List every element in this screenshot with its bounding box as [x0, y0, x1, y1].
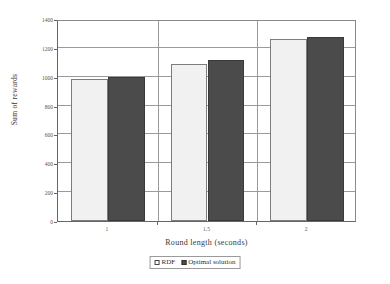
- x-axis-tick-label: 2: [286, 226, 326, 232]
- bar-optimal-solution-1: [108, 77, 145, 221]
- bar-optimal-solution-2: [307, 37, 344, 221]
- x-axis-tick-label: 1: [87, 226, 127, 232]
- category-divider: [158, 21, 159, 221]
- plot-area: [57, 20, 356, 222]
- light-square-swatch-icon: [155, 260, 160, 265]
- category-divider: [257, 21, 258, 221]
- bar-rdf-1.5: [171, 64, 208, 221]
- y-axis-title: Sum of rewards: [10, 55, 19, 145]
- x-axis-tick-mark: [256, 222, 257, 225]
- x-axis-title: Round length (seconds): [57, 238, 356, 247]
- chart-legend: RDFOptimal solution: [150, 256, 241, 269]
- dark-square-swatch-icon: [181, 260, 186, 265]
- bar-optimal-solution-1.5: [208, 60, 245, 221]
- legend-item: Optimal solution: [181, 258, 235, 266]
- y-axis-tick-label: 600: [0, 132, 53, 138]
- y-axis-tick-label: 1200: [0, 46, 53, 52]
- bar-rdf-1: [71, 79, 108, 221]
- y-axis-tick-label: 400: [0, 161, 53, 167]
- bar-rdf-2: [270, 39, 307, 221]
- legend-item-label: RDF: [162, 258, 176, 266]
- x-axis-tick-mark: [157, 222, 158, 225]
- legend-item-label: Optimal solution: [188, 258, 235, 266]
- x-axis-tick-label: 1.5: [187, 226, 227, 232]
- y-axis-tick-label: 1400: [0, 17, 53, 23]
- bar-chart-figure: 0200400600800100012001400 Sum of rewards…: [0, 0, 390, 284]
- y-axis-tick-label: 1000: [0, 75, 53, 81]
- y-axis-tick-mark: [54, 222, 57, 223]
- y-axis-tick-label: 0: [0, 219, 53, 225]
- legend-item: RDF: [155, 258, 176, 266]
- y-axis-tick-label: 800: [0, 104, 53, 110]
- y-axis-tick-label: 200: [0, 190, 53, 196]
